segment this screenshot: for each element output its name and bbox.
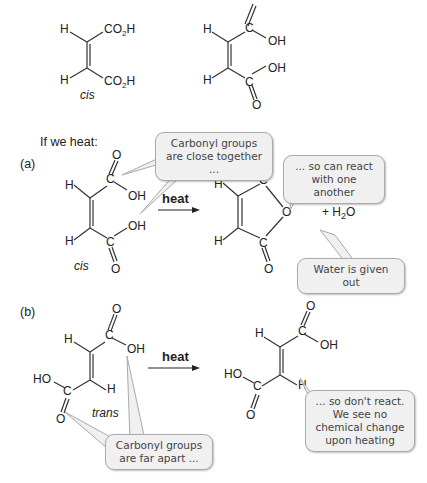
atom-o: O xyxy=(112,148,121,162)
atom-h: H xyxy=(65,178,74,192)
cis-label: cis xyxy=(80,88,95,102)
atom-oh: OH xyxy=(268,61,286,75)
atom-oh: OH xyxy=(268,34,286,48)
atom-c: C xyxy=(106,172,115,186)
atom-oh: OH xyxy=(320,338,338,352)
atom-ho: HO xyxy=(224,367,242,381)
heat-label: heat xyxy=(162,349,189,364)
bubble-water-given-out: Water is given out xyxy=(297,258,405,294)
intro-text: If we heat: xyxy=(40,135,98,149)
atom-oh: OH xyxy=(127,342,145,356)
atom-c: C xyxy=(63,384,72,398)
atom-c: C xyxy=(245,75,254,89)
atom-o: O xyxy=(246,408,255,422)
atom-oh: OH xyxy=(128,219,146,233)
atom-o: O xyxy=(252,98,261,112)
atom-ho: HO xyxy=(33,372,51,386)
atom-oh: OH xyxy=(128,189,146,203)
atom-o: O xyxy=(56,412,65,426)
heat-label: heat xyxy=(162,191,189,206)
cis-label: cis xyxy=(74,259,89,273)
bubble-no-reaction: ... so don't react. We see no chemical c… xyxy=(305,390,415,452)
atom-h: H xyxy=(203,22,212,36)
atom-o: O xyxy=(264,262,273,276)
atom-o: O xyxy=(111,262,120,276)
atom-c: C xyxy=(245,21,254,35)
atom-h: H xyxy=(214,234,223,248)
water-product: + H2O xyxy=(322,205,355,221)
atom-c: C xyxy=(259,236,268,250)
bubble-carbonyl-far: Carbonyl groups are far apart ... xyxy=(105,434,213,470)
atom-h: H xyxy=(60,73,69,87)
atom-c: C xyxy=(298,324,307,338)
bubble-carbonyl-close: Carbonyl groups are close together ... xyxy=(155,132,273,181)
atom-h: H xyxy=(203,73,212,87)
atom-c: C xyxy=(105,328,114,342)
atom-c: C xyxy=(106,235,115,249)
section-a-label: (a) xyxy=(20,157,35,171)
atom-c: C xyxy=(253,379,262,393)
atom-h: H xyxy=(60,22,69,36)
trans-label: trans xyxy=(92,406,119,420)
atom-o: O xyxy=(306,299,315,313)
atom-h: H xyxy=(255,326,264,340)
atom-h: H xyxy=(107,382,116,396)
co2h-group: CO2H xyxy=(104,22,135,38)
atom-o: O xyxy=(112,302,121,316)
bubble-can-react: ... so can react with one another xyxy=(283,155,385,204)
co2h-group: CO2H xyxy=(104,74,135,90)
atom-h: H xyxy=(64,332,73,346)
atom-h: H xyxy=(65,234,74,248)
section-b-label: (b) xyxy=(20,305,35,319)
